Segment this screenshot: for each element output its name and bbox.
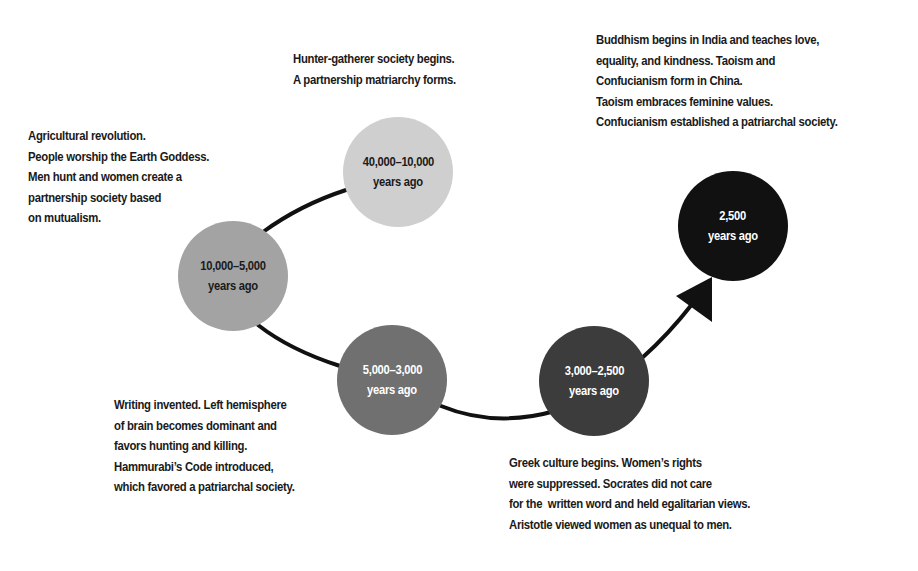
- description-line: were suppressed. Socrates did not care: [509, 474, 750, 495]
- stage-description-3000-2500: Greek culture begins. Women’s rights wer…: [509, 453, 750, 535]
- description-line: favors hunting and killing.: [114, 436, 295, 457]
- description-line: partnership society based: [28, 188, 209, 209]
- description-line: Buddhism begins in India and teaches lov…: [596, 30, 838, 51]
- stage-period: 5,000–3,000: [362, 360, 421, 380]
- stage-circle-40000-10000: 40,000–10,000 years ago: [343, 117, 453, 227]
- description-line: Aristotle viewed women as unequal to men…: [509, 515, 750, 536]
- stage-circle-3000-2500: 3,000–2,500 years ago: [539, 326, 649, 436]
- description-line: Hunter-gatherer society begins.: [293, 49, 456, 70]
- description-line: equality, and kindness. Taoism and: [596, 51, 838, 72]
- description-line: Greek culture begins. Women’s rights: [509, 453, 750, 474]
- description-line: People worship the Earth Goddess.: [28, 147, 209, 168]
- stage-circle-2500: 2,500 years ago: [678, 171, 788, 281]
- stage-circle-10000-5000: 10,000–5,000 years ago: [178, 221, 288, 331]
- description-line: of brain becomes dominant and: [114, 416, 295, 437]
- stage-unit: years ago: [569, 381, 619, 401]
- description-line: Hammurabi’s Code introduced,: [114, 457, 295, 478]
- stage-unit: years ago: [208, 276, 258, 296]
- stage-period: 40,000–10,000: [362, 152, 433, 172]
- stage-description-2500: Buddhism begins in India and teaches lov…: [596, 30, 838, 133]
- stage-unit: years ago: [708, 226, 758, 246]
- stage-circle-5000-3000: 5,000–3,000 years ago: [337, 325, 447, 435]
- stage-description-5000-3000: Writing invented. Left hemisphere of bra…: [114, 395, 295, 498]
- stage-period: 10,000–5,000: [200, 256, 265, 276]
- stage-unit: years ago: [373, 172, 423, 192]
- stage-unit: years ago: [367, 380, 417, 400]
- stage-description-10000-5000: Agricultural revolution. People worship …: [28, 126, 209, 229]
- description-line: which favored a patriarchal society.: [114, 477, 295, 498]
- description-line: Taoism embraces feminine values.: [596, 92, 838, 113]
- description-line: A partnership matriarchy forms.: [293, 70, 456, 91]
- description-line: Men hunt and women create a: [28, 167, 209, 188]
- stage-period: 3,000–2,500: [564, 361, 623, 381]
- description-line: for the written word and held egalitaria…: [509, 494, 750, 515]
- stage-period: 2,500: [720, 206, 747, 226]
- description-line: on mutualism.: [28, 208, 209, 229]
- description-line: Agricultural revolution.: [28, 126, 209, 147]
- description-line: Writing invented. Left hemisphere: [114, 395, 295, 416]
- stage-description-40000-10000: Hunter-gatherer society begins. A partne…: [293, 49, 456, 90]
- description-line: Confucianism form in China.: [596, 71, 838, 92]
- timeline-diagram: 40,000–10,000 years ago 10,000–5,000 yea…: [0, 0, 918, 571]
- description-line: Confucianism established a patriarchal s…: [596, 112, 838, 133]
